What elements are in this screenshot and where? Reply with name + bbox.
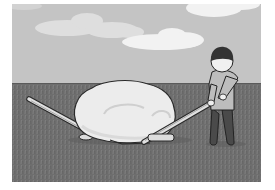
person-hand-right: [220, 94, 227, 100]
person-hand-left: [208, 100, 215, 106]
illustration-frame: Cartoon of a person using two long lever…: [12, 4, 261, 182]
scene-illustration: [12, 4, 261, 182]
right-fulcrum-stone: [148, 134, 174, 141]
